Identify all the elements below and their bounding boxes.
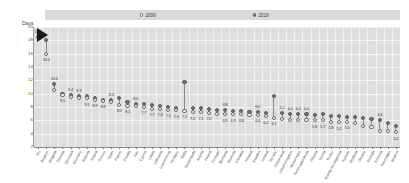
data-point-2009[interactable] xyxy=(353,115,357,119)
gridline-vertical xyxy=(67,27,68,147)
data-point-2019[interactable] xyxy=(166,108,170,112)
x-axis-tick xyxy=(152,147,153,149)
x-axis-tick xyxy=(184,147,185,149)
data-point-2009[interactable] xyxy=(288,112,292,116)
data-point-2019[interactable] xyxy=(85,96,89,100)
data-point-2019[interactable] xyxy=(296,118,300,122)
data-point-2019[interactable] xyxy=(256,113,260,117)
data-label: 6.4 xyxy=(255,118,260,123)
data-point-2009[interactable] xyxy=(313,113,317,117)
x-axis-tick xyxy=(355,147,356,149)
x-axis-tick-label: Albania xyxy=(309,150,318,162)
data-point-2019[interactable] xyxy=(329,120,333,124)
data-point-2019[interactable] xyxy=(174,108,178,112)
data-point-2019[interactable] xyxy=(288,118,292,122)
legend: 2009 2019 xyxy=(45,10,400,20)
legend-item-2009[interactable]: 2009 xyxy=(140,10,156,20)
x-axis-tick-label: Bosnia Herzegovina xyxy=(324,150,343,180)
data-point-2019[interactable] xyxy=(304,118,308,122)
data-point-2019[interactable] xyxy=(337,120,341,124)
data-point-2019[interactable] xyxy=(215,112,219,116)
data-point-2019[interactable] xyxy=(191,110,195,114)
data-label: 7.2 xyxy=(182,114,187,119)
data-point-2019[interactable] xyxy=(77,96,81,100)
data-point-2019[interactable] xyxy=(109,100,113,104)
data-point-2019[interactable] xyxy=(93,98,97,102)
data-point-2019[interactable] xyxy=(361,124,365,128)
gridline-horizontal xyxy=(34,94,400,95)
data-point-2019[interactable] xyxy=(369,125,373,129)
data-point-2019[interactable] xyxy=(52,88,56,92)
data-point-2019[interactable] xyxy=(239,112,243,116)
gridline-vertical xyxy=(75,27,76,147)
data-point-2009[interactable] xyxy=(345,115,349,119)
data-point-2019[interactable] xyxy=(353,121,357,125)
data-point-2009[interactable] xyxy=(280,111,284,115)
data-label: 7.4 xyxy=(174,114,179,119)
data-label: 6.1 xyxy=(271,121,276,126)
x-axis-tick xyxy=(339,147,340,149)
data-point-2019[interactable] xyxy=(386,129,390,133)
data-point-2019[interactable] xyxy=(60,93,64,97)
x-axis-tick-label: Estonia xyxy=(81,150,90,162)
data-point-2009[interactable] xyxy=(191,106,195,110)
data-point-2019[interactable] xyxy=(272,116,276,120)
x-axis-tick xyxy=(111,147,112,149)
gridline-vertical xyxy=(245,27,246,147)
data-point-2019[interactable] xyxy=(231,112,235,116)
data-point-2019[interactable] xyxy=(44,52,48,56)
data-point-2019[interactable] xyxy=(125,104,129,108)
data-point-2009[interactable] xyxy=(272,94,276,98)
data-point-2019[interactable] xyxy=(321,118,325,122)
data-point-2009[interactable] xyxy=(304,112,308,116)
data-point-2019[interactable] xyxy=(207,111,211,115)
data-label: 10.6 xyxy=(51,76,58,81)
gridline-vertical xyxy=(335,27,336,147)
data-point-2019[interactable] xyxy=(69,95,73,99)
legend-label-2019: 2019 xyxy=(258,13,268,18)
y-axis-tick-label: 20 xyxy=(22,24,33,29)
open-circle-icon xyxy=(140,13,143,16)
data-point-2019[interactable] xyxy=(150,107,154,111)
legend-item-2019[interactable]: 2019 xyxy=(253,10,269,20)
data-point-2009[interactable] xyxy=(182,80,186,84)
data-point-2019[interactable] xyxy=(158,107,162,111)
x-axis-tick-label: Belarus xyxy=(390,150,399,163)
data-point-2009[interactable] xyxy=(117,96,121,100)
data-label: 9.4 xyxy=(68,87,73,92)
gridline-vertical xyxy=(270,27,271,147)
data-label: 7.1 xyxy=(198,116,203,121)
data-point-2019[interactable] xyxy=(313,118,317,122)
data-point-2019[interactable] xyxy=(223,112,227,116)
data-label: 8.1 xyxy=(125,109,130,114)
data-point-2019[interactable] xyxy=(247,113,251,117)
data-point-2009[interactable] xyxy=(296,112,300,116)
gridline-vertical xyxy=(286,27,287,147)
data-point-2009[interactable] xyxy=(52,82,56,86)
gridline-vertical xyxy=(180,27,181,147)
x-axis-tick xyxy=(298,147,299,149)
data-point-2019[interactable] xyxy=(345,120,349,124)
data-point-2019[interactable] xyxy=(134,104,138,108)
data-point-2019[interactable] xyxy=(378,129,382,133)
data-point-2009[interactable] xyxy=(329,114,333,118)
x-axis-tick-label: Slovakia xyxy=(235,150,245,164)
gridline-vertical xyxy=(107,27,108,147)
data-point-2019[interactable] xyxy=(101,99,105,103)
data-label: 7.5 xyxy=(166,113,171,118)
data-label: 7.7 xyxy=(149,112,154,117)
x-axis-tick xyxy=(176,147,177,149)
data-point-2019[interactable] xyxy=(142,105,146,109)
data-point-2009[interactable] xyxy=(369,117,373,121)
data-point-2019[interactable] xyxy=(182,109,186,113)
data-point-2019[interactable] xyxy=(264,114,268,118)
data-point-2009[interactable] xyxy=(386,121,390,125)
data-point-2019[interactable] xyxy=(199,110,203,114)
gridline-vertical xyxy=(58,27,59,147)
data-point-2009[interactable] xyxy=(321,112,325,116)
data-point-2009[interactable] xyxy=(378,118,382,122)
data-point-2009[interactable] xyxy=(394,124,398,128)
data-point-2009[interactable] xyxy=(361,116,365,120)
data-point-2009[interactable] xyxy=(337,114,341,118)
y-axis-tick-label: 18 xyxy=(22,38,33,43)
